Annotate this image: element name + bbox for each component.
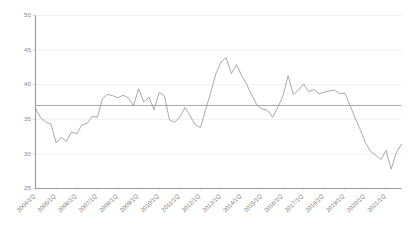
ytick-label-30: 30 [24,150,31,157]
ytick-label-45: 45 [24,46,31,53]
line-chart: 2530354045502004/1Q2005/1Q2006/1Q2007/1Q… [0,0,420,236]
xtick-label-2010-1Q: 2010/1Q [139,193,160,214]
xtick-label-2016-1Q: 2016/1Q [263,193,284,214]
xtick-label-2018-1Q: 2018/1Q [304,193,325,214]
xtick-label-2009-1Q: 2009/1Q [119,193,140,214]
plot-background [36,16,402,189]
xtick-label-2005-1Q: 2005/1Q [36,193,57,214]
xtick-label-2006-1Q: 2006/1Q [57,193,78,214]
xtick-label-2013-1Q: 2013/1Q [201,193,222,214]
xtick-label-2014-1Q: 2014/1Q [222,193,243,214]
chart-canvas: 2530354045502004/1Q2005/1Q2006/1Q2007/1Q… [0,0,420,236]
xtick-label-2012-1Q: 2012/1Q [181,193,202,214]
ytick-label-50: 50 [24,11,31,18]
xtick-label-2004-1Q: 2004/1Q [16,193,37,214]
xtick-label-2021-1Q: 2021/1Q [366,193,387,214]
ytick-label-35: 35 [24,115,31,122]
xtick-label-2019-1Q: 2019/1Q [325,193,346,214]
ytick-label-25: 25 [24,184,31,191]
xtick-label-2008-1Q: 2008/1Q [98,193,119,214]
xtick-label-2020-1Q: 2020/1Q [346,193,367,214]
xtick-label-2011-1Q: 2011/1Q [160,193,180,213]
xtick-label-2017-1Q: 2017/1Q [284,193,305,214]
ytick-label-40: 40 [24,80,31,87]
xtick-label-2007-1Q: 2007/1Q [78,193,99,214]
xtick-label-2015-1Q: 2015/1Q [242,193,263,214]
